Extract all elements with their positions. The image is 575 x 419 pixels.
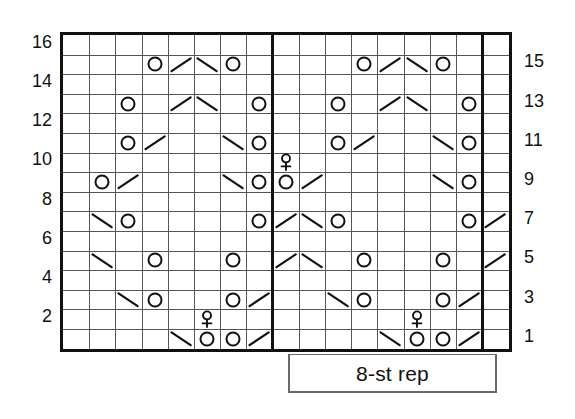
yarn-over-circle-icon (462, 96, 477, 111)
chart-cell[interactable] (299, 172, 325, 192)
yarn-over-circle-icon (200, 331, 215, 346)
chart-cell[interactable] (351, 251, 377, 271)
chart-cell[interactable] (325, 133, 351, 153)
chart-cell[interactable] (273, 251, 299, 271)
chart-cell[interactable] (377, 329, 403, 349)
chart-cell[interactable] (430, 329, 456, 349)
chart-cell[interactable] (456, 211, 482, 231)
chart-cell[interactable] (246, 94, 272, 114)
chart-cell[interactable] (220, 251, 246, 271)
chart-cell[interactable] (404, 94, 430, 114)
row-number-left-12: 12 (18, 111, 52, 129)
chart-cell[interactable] (115, 94, 141, 114)
chart-cell[interactable] (273, 211, 299, 231)
grid-hline (63, 270, 509, 271)
k2tog-right-slant-icon (274, 212, 298, 230)
row-number-right-7: 7 (524, 209, 534, 227)
yarn-over-circle-icon (226, 57, 241, 72)
chart-cell[interactable] (456, 290, 482, 310)
chart-cell[interactable] (482, 251, 508, 271)
chart-cell[interactable] (351, 290, 377, 310)
chart-cell[interactable] (430, 290, 456, 310)
chart-cell[interactable] (220, 55, 246, 75)
chart-cell[interactable] (351, 133, 377, 153)
chart-cell[interactable] (246, 290, 272, 310)
yarn-over-circle-icon (226, 253, 241, 268)
chart-cell[interactable] (142, 55, 168, 75)
chart-cell[interactable] (168, 94, 194, 114)
chart-cell[interactable] (482, 211, 508, 231)
chart-cell[interactable] (142, 251, 168, 271)
chart-cell[interactable] (273, 153, 299, 173)
chart-cell[interactable] (430, 172, 456, 192)
chart-cell[interactable] (456, 94, 482, 114)
k2tog-right-slant-icon (143, 134, 167, 152)
chart-cell[interactable] (115, 290, 141, 310)
yarn-over-circle-icon (462, 174, 477, 189)
chart-cell[interactable] (430, 133, 456, 153)
yarn-over-circle-icon (147, 57, 162, 72)
yarn-over-circle-icon (147, 292, 162, 307)
chart-grid-inner (63, 35, 509, 349)
grid-hline (63, 74, 509, 75)
chart-cell[interactable] (246, 172, 272, 192)
yarn-over-circle-icon (409, 331, 424, 346)
chart-cell[interactable] (194, 55, 220, 75)
k2tog-right-slant-icon (457, 291, 481, 309)
chart-cell[interactable] (115, 133, 141, 153)
chart-cell[interactable] (377, 55, 403, 75)
chart-cell[interactable] (168, 329, 194, 349)
chart-cell[interactable] (404, 309, 430, 329)
chart-cell[interactable] (299, 251, 325, 271)
chart-cell[interactable] (430, 55, 456, 75)
yarn-over-circle-icon (357, 292, 372, 307)
chart-cell[interactable] (168, 55, 194, 75)
yarn-over-circle-icon (357, 253, 372, 268)
chart-cell[interactable] (194, 329, 220, 349)
chart-cell[interactable] (194, 309, 220, 329)
yarn-over-circle-icon (462, 135, 477, 150)
repeat-label: 8-st rep (288, 355, 497, 393)
bobble-symbol-icon (409, 310, 425, 328)
chart-cell[interactable] (220, 329, 246, 349)
chart-cell[interactable] (115, 211, 141, 231)
yarn-over-circle-icon (435, 253, 450, 268)
yarn-over-circle-icon (226, 331, 241, 346)
chart-cell[interactable] (430, 251, 456, 271)
chart-cell[interactable] (404, 329, 430, 349)
chart-cell[interactable] (325, 94, 351, 114)
chart-cell[interactable] (246, 133, 272, 153)
chart-grid[interactable] (60, 32, 512, 352)
yarn-over-circle-icon (252, 135, 267, 150)
chart-cell[interactable] (142, 133, 168, 153)
chart-cell[interactable] (246, 211, 272, 231)
chart-cell[interactable] (456, 329, 482, 349)
chart-cell[interactable] (351, 55, 377, 75)
ssk-left-slant-icon (431, 173, 455, 191)
chart-cell[interactable] (89, 172, 115, 192)
ssk-left-slant-icon (169, 330, 193, 348)
chart-cell[interactable] (404, 55, 430, 75)
chart-cell[interactable] (89, 251, 115, 271)
yarn-over-circle-icon (435, 331, 450, 346)
chart-cell[interactable] (115, 172, 141, 192)
chart-cell[interactable] (273, 172, 299, 192)
k2tog-right-slant-icon (378, 95, 402, 113)
chart-cell[interactable] (220, 290, 246, 310)
chart-cell[interactable] (325, 290, 351, 310)
chart-cell[interactable] (194, 94, 220, 114)
chart-cell[interactable] (220, 172, 246, 192)
k2tog-right-slant-icon (116, 173, 140, 191)
chart-cell[interactable] (246, 329, 272, 349)
row-number-left-2: 2 (18, 307, 52, 325)
chart-cell[interactable] (377, 94, 403, 114)
chart-cell[interactable] (299, 211, 325, 231)
chart-cell[interactable] (456, 133, 482, 153)
yarn-over-circle-icon (95, 174, 110, 189)
chart-cell[interactable] (325, 211, 351, 231)
chart-cell[interactable] (142, 290, 168, 310)
yarn-over-circle-icon (331, 135, 346, 150)
chart-cell[interactable] (220, 133, 246, 153)
chart-cell[interactable] (456, 172, 482, 192)
chart-cell[interactable] (89, 211, 115, 231)
